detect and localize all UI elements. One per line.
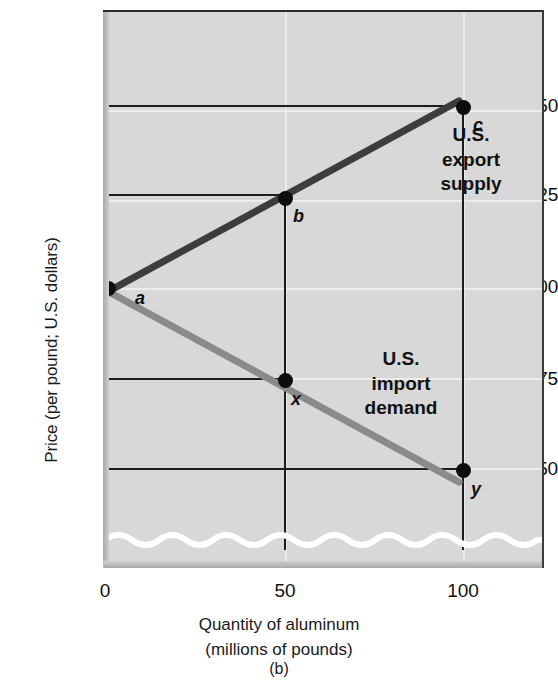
data-point-y: [456, 463, 471, 478]
x-axis-title-line-1: Quantity of aluminum: [0, 613, 558, 638]
faint-gridline-a: [103, 110, 544, 112]
data-point-label-x: x: [291, 389, 301, 410]
data-point-x: [278, 373, 293, 388]
faint-gridline-c: [103, 288, 544, 290]
x-tick-label-50: 50: [245, 580, 325, 602]
import-demand-annotation-line-3: demand: [341, 396, 461, 421]
axis-break-wave-icon: [105, 528, 542, 550]
export-supply-annotation: U.S. export supply: [411, 123, 531, 197]
plot-right-border: [542, 10, 544, 568]
price-line-1-25: [103, 194, 286, 196]
x-tick-label-0: 0: [65, 580, 145, 602]
data-point-label-b: b: [293, 206, 304, 227]
plot-inner: a b c x y U.S. export supply U.S. import…: [103, 10, 544, 568]
plot-top-border: [103, 10, 544, 12]
import-demand-annotation-line-2: import: [341, 372, 461, 397]
import-demand-annotation: U.S. import demand: [341, 347, 461, 421]
data-point-b: [278, 191, 293, 206]
faint-gridline-b: [103, 200, 544, 202]
plot-area: a b c x y U.S. export supply U.S. import…: [103, 10, 544, 568]
x-axis-title-line-2: (millions of pounds): [0, 638, 558, 663]
x-tick-label-100: 100: [423, 580, 503, 602]
price-line-0-75: [103, 378, 286, 380]
plot-left-edge: [103, 10, 109, 568]
data-point-label-a: a: [135, 288, 145, 309]
plot-bottom-edge: [103, 561, 544, 568]
export-supply-annotation-line-2: export: [411, 148, 531, 173]
import-demand-annotation-line-1: U.S.: [341, 347, 461, 372]
figure-caption: (b): [0, 660, 558, 678]
data-point-label-y: y: [471, 479, 481, 500]
economics-figure: Price (per pound; U.S. dollars) $1.50 1.…: [0, 0, 558, 682]
data-point-c: [456, 100, 471, 115]
x-axis-title: Quantity of aluminum (millions of pounds…: [0, 613, 558, 662]
quantity-line-50: [284, 194, 286, 550]
y-axis-title: Price (per pound; U.S. dollars): [42, 140, 62, 560]
price-line-1-50: [103, 105, 464, 107]
export-supply-annotation-line-1: U.S.: [411, 123, 531, 148]
export-supply-annotation-line-3: supply: [411, 172, 531, 197]
